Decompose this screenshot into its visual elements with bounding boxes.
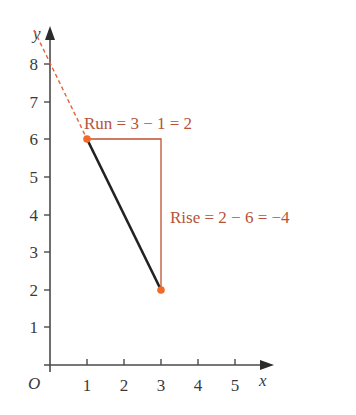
axes xyxy=(44,26,274,372)
x-tick-label: 2 xyxy=(120,376,129,395)
y-tick-label: 6 xyxy=(30,130,39,149)
x-ticks xyxy=(87,359,235,365)
origin-label: O xyxy=(28,374,40,393)
y-tick-label: 3 xyxy=(30,243,39,262)
y-tick-label: 7 xyxy=(30,93,39,112)
dashed-extension-line xyxy=(34,30,87,139)
y-tick-label: 1 xyxy=(30,318,39,337)
y-tick-label: 4 xyxy=(30,206,39,225)
run-annotation: Run = 3 − 1 = 2 xyxy=(84,114,192,133)
y-tick-label: 2 xyxy=(30,281,39,300)
y-ticks xyxy=(44,64,50,327)
x-axis-label: x xyxy=(258,371,267,390)
y-tick-label: 8 xyxy=(30,55,39,74)
y-axis-label: y xyxy=(31,24,41,43)
x-tick-label: 1 xyxy=(83,376,92,395)
x-tick-label: 4 xyxy=(194,376,203,395)
y-axis-arrow-icon xyxy=(45,26,55,40)
point-1-6 xyxy=(83,135,91,143)
line-segment xyxy=(87,139,161,290)
x-tick-label: 5 xyxy=(231,376,240,395)
coordinate-plane: 1 2 3 4 5 1 2 3 4 5 6 7 8 y x O Run = 3 … xyxy=(0,0,356,415)
rise-annotation: Rise = 2 − 6 = −4 xyxy=(170,208,290,227)
x-axis-arrow-icon xyxy=(260,360,274,370)
y-tick-label: 5 xyxy=(30,168,39,187)
point-3-2 xyxy=(157,286,165,294)
x-tick-label: 3 xyxy=(157,376,166,395)
